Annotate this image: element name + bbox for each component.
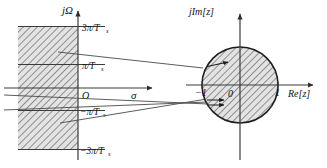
s-plane-tick-3pi-text: 3π/T xyxy=(81,23,100,33)
s-plane-tick-neg-pi-text: −π/T xyxy=(80,107,100,117)
s-plane-tick-pi-text: π/T xyxy=(82,61,95,71)
mapping-line-upper xyxy=(58,52,203,68)
s-plane-origin-label: O xyxy=(82,90,89,101)
s-plane-tick-3pi-sub: s xyxy=(106,27,109,34)
s-plane-tick-pi: π/T s xyxy=(82,61,104,73)
figure-canvas: jΩ σ O 3π/T s π/T s −π/T s −3π/T s xyxy=(0,0,327,168)
s-plane-group: jΩ σ O 3π/T s π/T s −π/T s −3π/T s xyxy=(4,4,152,160)
jim-axis-label: jIm[z] xyxy=(187,6,214,17)
s-plane-tick-pi-sub: s xyxy=(101,65,104,72)
sigma-axis-label: σ xyxy=(131,89,137,101)
s-plane-tick-3pi: 3π/T s xyxy=(81,23,109,35)
re-axis-label: Re[z] xyxy=(287,88,310,99)
s-plane-tick-neg-3pi: −3π/T s xyxy=(80,146,111,158)
z-plane-origin-label: 0 xyxy=(228,88,233,99)
re-tick-neg1-label: −1 xyxy=(195,87,207,98)
s-plane-tick-neg-3pi-text: −3π/T xyxy=(80,146,105,156)
z-plane-group: jIm[z] Re[z] −1 0 1 xyxy=(186,6,313,160)
jomega-axis-label: jΩ xyxy=(60,4,73,16)
splane-zplane-mapping-diagram: jΩ σ O 3π/T s π/T s −π/T s −3π/T s xyxy=(0,0,327,168)
re-tick-pos1-label: 1 xyxy=(275,87,280,98)
s-plane-tick-neg-3pi-sub: s xyxy=(108,150,111,157)
s-plane-tick-neg-pi-sub: s xyxy=(103,111,106,118)
